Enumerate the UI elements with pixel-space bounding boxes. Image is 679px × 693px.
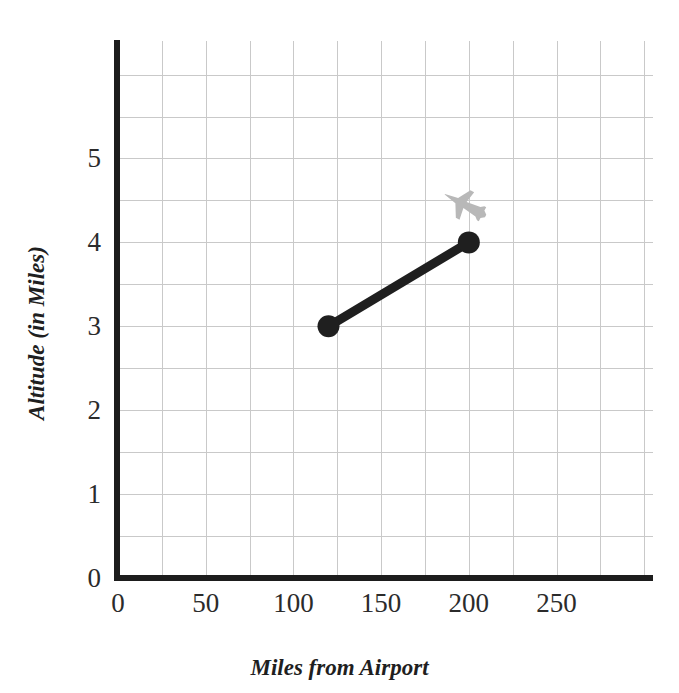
series-group [317, 231, 479, 337]
airplane-icon [436, 179, 494, 231]
y-axis-title: Altitude (in Miles) [24, 183, 50, 483]
series-line-segment [328, 242, 468, 326]
data-point-marker [317, 315, 339, 337]
x-axis-title: Miles from Airport [0, 655, 679, 681]
data-series-layer [0, 0, 679, 693]
data-point-marker [458, 231, 480, 253]
chart-container: 050100150200250012345 Miles from Airport… [0, 0, 679, 693]
